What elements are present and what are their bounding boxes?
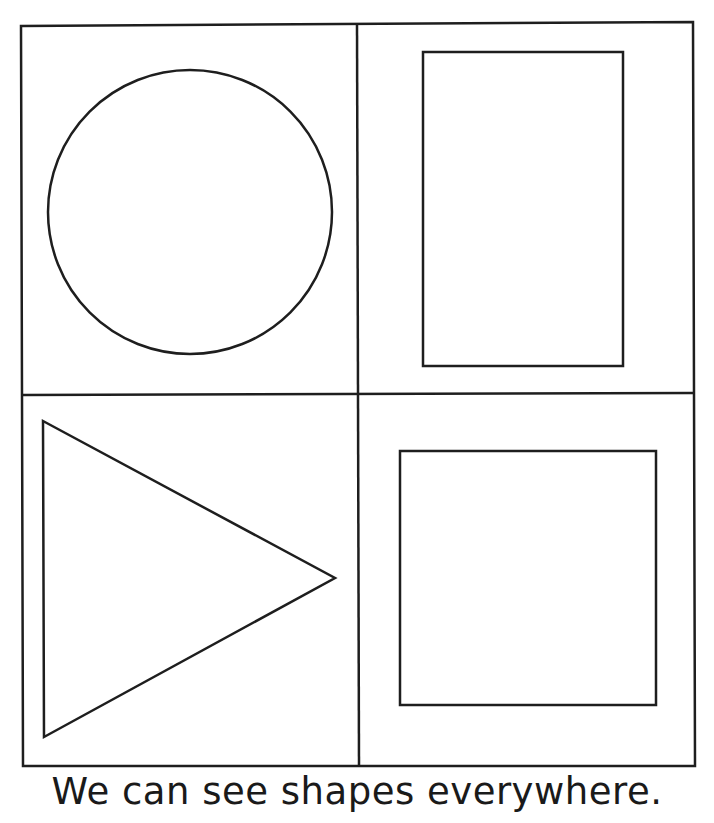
rectangle-shape	[423, 52, 623, 366]
worksheet-caption: We can see shapes everywhere.	[0, 770, 714, 813]
cell-top-left	[48, 70, 332, 354]
cell-bottom-left	[43, 421, 335, 737]
cell-top-right	[423, 52, 623, 366]
circle-shape	[48, 70, 332, 354]
shapes-grid	[0, 0, 714, 823]
grid-divider-horizontal	[22, 393, 694, 395]
worksheet-page: We can see shapes everywhere.	[0, 0, 714, 823]
triangle-shape	[43, 421, 335, 737]
cell-bottom-right	[400, 451, 656, 705]
square-shape	[400, 451, 656, 705]
